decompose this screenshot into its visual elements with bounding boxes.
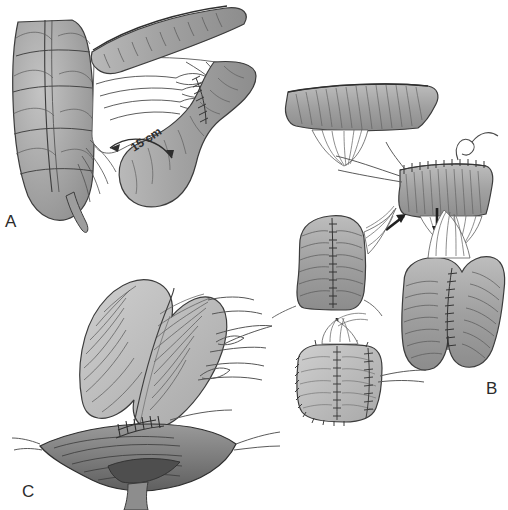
folded-j-pouch [402, 210, 505, 370]
anal-canal [40, 424, 236, 510]
bowel-segment-horizontal [285, 84, 437, 166]
surgical-illustration-svg: 15 cm [0, 0, 508, 510]
colonic-pouch [80, 280, 227, 429]
panel-label-a: A [5, 212, 17, 232]
haustrated-colon [13, 20, 94, 220]
panel-c-group [12, 280, 280, 510]
opened-bowel-longitudinal-incision [272, 206, 396, 318]
figure-container: 15 cm [0, 0, 508, 510]
panel-a-group: 15 cm [13, 6, 256, 232]
panel-b-group [272, 84, 505, 426]
panel-label-b: B [486, 379, 498, 399]
panel-label-c: C [22, 482, 35, 502]
